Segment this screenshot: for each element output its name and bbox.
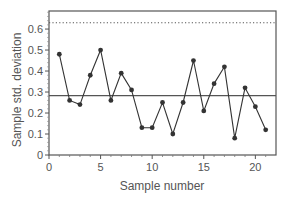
x-tick-label: 5 bbox=[98, 161, 104, 173]
data-point bbox=[160, 100, 165, 105]
x-tick-label: 20 bbox=[249, 161, 261, 173]
data-point bbox=[243, 85, 248, 90]
y-tick-label: 0.2 bbox=[28, 107, 43, 119]
data-point bbox=[181, 100, 186, 105]
y-tick-label: 0.6 bbox=[28, 23, 43, 35]
data-point bbox=[57, 52, 62, 57]
data-point bbox=[222, 64, 227, 69]
data-point bbox=[67, 98, 72, 103]
plot-frame bbox=[49, 11, 276, 155]
x-tick-label: 0 bbox=[46, 161, 52, 173]
data-point bbox=[150, 125, 155, 130]
data-point bbox=[263, 127, 268, 132]
data-point bbox=[98, 48, 103, 53]
data-point bbox=[232, 136, 237, 141]
data-point bbox=[253, 104, 258, 109]
data-point bbox=[201, 109, 206, 114]
y-tick-label: 0.4 bbox=[28, 65, 43, 77]
data-point bbox=[170, 132, 175, 137]
chart-canvas: 0510152000.10.20.30.40.50.6 Sample numbe… bbox=[0, 0, 289, 197]
y-tick-label: 0 bbox=[37, 149, 43, 161]
control-chart: 0510152000.10.20.30.40.50.6 Sample numbe… bbox=[0, 0, 289, 197]
data-point bbox=[139, 125, 144, 130]
series-line bbox=[59, 50, 265, 138]
data-point bbox=[119, 71, 124, 76]
y-tick-label: 0.1 bbox=[28, 128, 43, 140]
y-tick-label: 0.5 bbox=[28, 44, 43, 56]
x-tick-label: 15 bbox=[198, 161, 210, 173]
data-point bbox=[88, 73, 93, 78]
plot-border bbox=[49, 11, 276, 155]
data-series bbox=[57, 48, 268, 141]
x-tick-label: 10 bbox=[146, 161, 158, 173]
y-axis-label: Sample std. deviation bbox=[10, 33, 24, 148]
reference-lines bbox=[49, 23, 276, 96]
data-point bbox=[109, 98, 114, 103]
data-point bbox=[191, 58, 196, 63]
y-tick-label: 0.3 bbox=[28, 86, 43, 98]
axis-ticks: 0510152000.10.20.30.40.50.6 bbox=[28, 12, 266, 173]
x-axis-label: Sample number bbox=[120, 179, 205, 193]
data-point bbox=[212, 81, 217, 86]
data-point bbox=[78, 102, 83, 107]
data-point bbox=[129, 88, 134, 93]
